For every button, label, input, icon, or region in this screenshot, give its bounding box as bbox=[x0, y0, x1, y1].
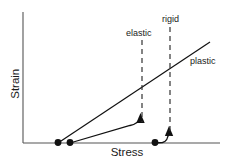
onset-plastic-dot bbox=[55, 139, 62, 146]
y-axis-label: Strain bbox=[10, 56, 22, 112]
plot-canvas bbox=[0, 0, 231, 165]
x-axis-label: Stress bbox=[97, 147, 157, 159]
stress-strain-figure: Strain Stress elastic rigid plastic bbox=[0, 0, 231, 165]
elastic-annotation-label: elastic bbox=[126, 29, 152, 38]
plastic-curve bbox=[58, 42, 210, 143]
elastic-arrowhead bbox=[136, 113, 144, 123]
rigid-arrowhead bbox=[165, 126, 173, 136]
elastic-curve bbox=[70, 118, 141, 143]
plastic-annotation-label: plastic bbox=[190, 57, 216, 66]
onset-elastic-dot bbox=[67, 139, 74, 146]
onset-rigid-dot bbox=[152, 139, 159, 146]
rigid-annotation-label: rigid bbox=[162, 15, 179, 24]
